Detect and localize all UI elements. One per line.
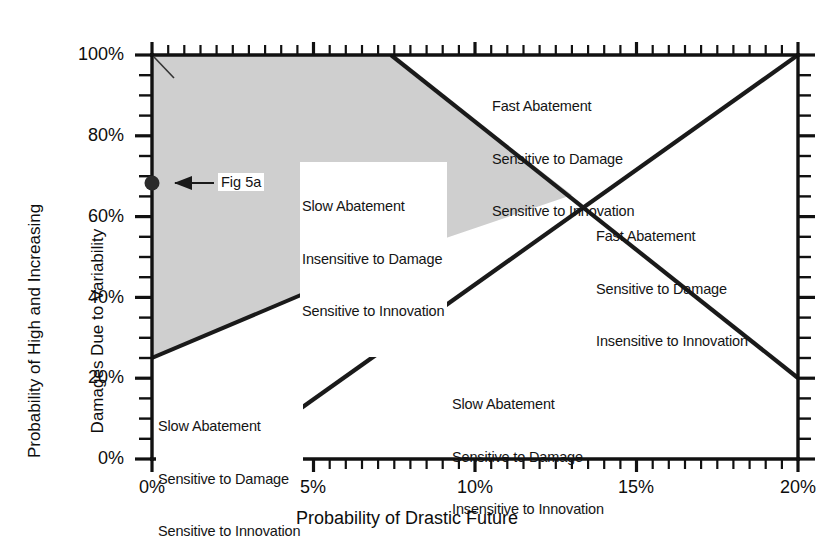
annotation-line-1: Fast Abatement (596, 228, 748, 246)
figure-container: Slow Abatement Insensitive to Damage Sen… (0, 0, 836, 548)
y-tick-label-80: 80% (52, 125, 124, 146)
annotation-line-2: Sensitive to Damage (596, 281, 748, 299)
y-axis-title: Probability of High and Increasing Damag… (0, 151, 150, 511)
annotation-line-2: Sensitive to Damage (492, 151, 634, 169)
annotation-slow-abatement-insensitive: Slow Abatement Insensitive to Damage Sen… (300, 162, 447, 357)
y-axis-right-ticks (798, 55, 815, 459)
x-axis-top-ticks (152, 42, 798, 55)
annotation-line-1: Slow Abatement (158, 418, 300, 436)
x-tick-label-10: 10% (440, 477, 510, 498)
y-tick-label-100: 100% (52, 44, 124, 65)
x-tick-label-15: 15% (601, 477, 671, 498)
x-tick-label-20: 20% (763, 477, 833, 498)
annotation-line-2: Sensitive to Damage (452, 449, 604, 467)
fig-5a-callout-label: Fig 5a (218, 173, 264, 191)
y-axis-title-line-2: Damages Due to Variability (87, 151, 108, 511)
annotation-line-1: Slow Abatement (452, 396, 604, 414)
x-axis-title: Probability of Drastic Future (296, 508, 518, 529)
y-axis-title-line-1: Probability of High and Increasing (24, 151, 45, 511)
annotation-fast-abatement-insensitive: Fast Abatement Sensitive to Damage Insen… (596, 193, 748, 386)
annotation-slow-abatement-sensitive-lower-left: Slow Abatement Sensitive to Damage Sensi… (156, 382, 303, 548)
annotation-line-1: Slow Abatement (302, 198, 444, 216)
annotation-line-3: Sensitive to Innovation (158, 523, 300, 541)
annotation-line-2: Insensitive to Damage (302, 251, 444, 269)
annotation-line-1: Fast Abatement (492, 98, 634, 116)
annotation-line-3: Sensitive to Innovation (302, 303, 444, 321)
x-tick-label-5: 5% (278, 477, 348, 498)
annotation-line-3: Insensitive to Innovation (596, 333, 748, 351)
